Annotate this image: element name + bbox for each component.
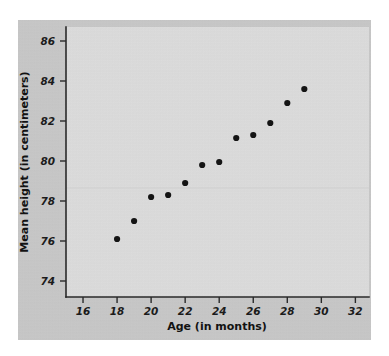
y-tick-label: 74 <box>40 275 55 287</box>
y-tick-label: 86 <box>40 35 55 47</box>
y-axis-ticks: 74767880828486 <box>40 35 66 287</box>
y-tick-label: 76 <box>40 235 55 247</box>
x-tick-label: 16 <box>76 305 91 317</box>
x-tick-label: 26 <box>246 305 261 317</box>
data-point <box>131 218 137 224</box>
x-tick-label: 22 <box>178 305 193 317</box>
x-tick-label: 28 <box>280 305 295 317</box>
data-point <box>301 86 307 92</box>
x-axis-ticks: 161820222426283032 <box>76 297 363 317</box>
data-point <box>148 194 154 200</box>
scatter-plot-figure: 74767880828486 161820222426283032 Age (i… <box>0 0 389 356</box>
data-point <box>216 159 222 165</box>
data-point <box>114 236 120 242</box>
x-tick-label: 32 <box>348 305 363 317</box>
y-tick-label: 84 <box>40 75 55 87</box>
data-point <box>267 120 273 126</box>
y-tick-label: 82 <box>40 115 55 127</box>
plot-svg: 74767880828486 161820222426283032 Age (i… <box>0 0 389 356</box>
data-point <box>199 162 205 168</box>
x-tick-label: 30 <box>314 305 329 317</box>
data-point <box>284 100 290 106</box>
y-axis-title: Mean height (in centimeters) <box>18 71 31 252</box>
x-tick-label: 18 <box>110 305 125 317</box>
y-tick-label: 80 <box>40 155 55 167</box>
x-axis-title: Age (in months) <box>167 320 267 333</box>
data-point <box>165 192 171 198</box>
y-tick-label: 78 <box>40 195 55 207</box>
data-points <box>114 86 307 242</box>
x-tick-label: 24 <box>212 305 227 317</box>
data-point <box>250 132 256 138</box>
data-point <box>233 135 239 141</box>
data-point <box>182 180 188 186</box>
x-tick-label: 20 <box>144 305 159 317</box>
